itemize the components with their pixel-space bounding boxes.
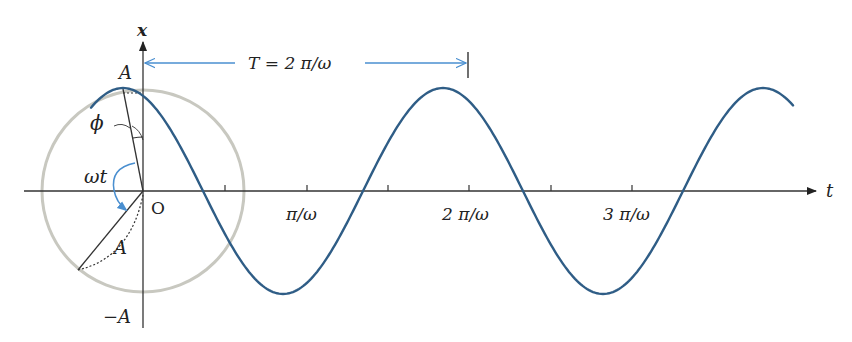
- tick-label-pi-over-omega: π/ω: [285, 204, 317, 224]
- rotated-phasor-line: [78, 191, 143, 270]
- phase-label: ϕ: [90, 111, 104, 135]
- shm-diagram: x t A −A O ϕ ωt A T = 2 π/ω π/ω 2 π/ω 3 …: [0, 0, 852, 342]
- t-axis-ticks: [225, 185, 632, 191]
- omega-t-label: ωt: [84, 165, 107, 187]
- radius-label: A: [112, 237, 127, 258]
- tick-label-2pi-over-omega: 2 π/ω: [441, 204, 489, 224]
- phase-phasor-line: [123, 89, 143, 191]
- amplitude-negative-label: −A: [103, 306, 131, 327]
- omega-t-arrow: [113, 163, 135, 210]
- x-axis-label: x: [136, 20, 148, 40]
- tick-label-3pi-over-omega: 3 π/ω: [603, 204, 650, 224]
- phi-leader: [114, 124, 130, 128]
- period-label: T = 2 π/ω: [248, 53, 332, 73]
- phi-angle-arc: [133, 137, 143, 138]
- amplitude-positive-label: A: [117, 62, 132, 83]
- t-axis-label: t: [826, 180, 834, 201]
- origin-label: O: [151, 198, 165, 218]
